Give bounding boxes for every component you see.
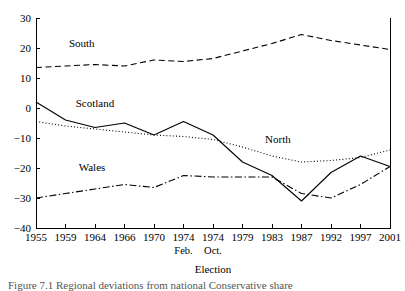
x-tick-label: 1955 xyxy=(25,231,48,243)
x-tick-label: 1979 xyxy=(232,231,255,243)
axes xyxy=(36,18,390,228)
y-tick-label: −30 xyxy=(14,192,32,204)
axis-spines xyxy=(36,18,390,228)
axis-title-group: Election xyxy=(195,263,232,275)
series-line-scotland xyxy=(36,102,390,201)
y-tick-label: −20 xyxy=(14,162,32,174)
x-tick-label: 1997 xyxy=(350,231,373,243)
y-tick-label: −10 xyxy=(14,132,32,144)
y-tick-label: 10 xyxy=(20,72,32,84)
series-line-north xyxy=(36,122,390,163)
x-tick-label: 1987 xyxy=(291,231,314,243)
x-tick-label: 1970 xyxy=(143,231,166,243)
series-label-south: South xyxy=(69,37,95,49)
series-label-north: North xyxy=(265,133,291,145)
x-tick-label: 1966 xyxy=(114,231,137,243)
series-annotations: SouthScotlandNorthWales xyxy=(69,37,291,174)
x-axis-title: Election xyxy=(195,263,232,275)
x-tick-sublabel: Feb. xyxy=(174,245,192,256)
data-series xyxy=(36,35,390,202)
x-tick-label: 1974 xyxy=(173,231,196,243)
y-tick-label: 0 xyxy=(26,102,32,114)
y-tick-label: 30 xyxy=(20,12,32,24)
x-tick-label: 2001 xyxy=(379,231,401,243)
figure-caption: Figure 7.1 Regional deviations from nati… xyxy=(8,279,403,291)
x-tick-sublabel: Oct. xyxy=(204,245,222,256)
series-label-scotland: Scotland xyxy=(76,97,115,109)
y-tick-label: 20 xyxy=(20,42,32,54)
series-label-wales: Wales xyxy=(79,161,106,173)
x-tick-label: 1959 xyxy=(55,231,78,243)
x-tick-label: 1992 xyxy=(320,231,342,243)
x-tick-label: 1983 xyxy=(261,231,284,243)
x-tick-label: 1964 xyxy=(84,231,107,243)
x-tick-label: 1974 xyxy=(202,231,225,243)
